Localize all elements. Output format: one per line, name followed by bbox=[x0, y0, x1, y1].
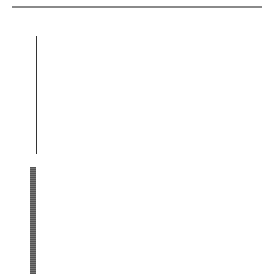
gel-bp-axis bbox=[36, 36, 39, 154]
gel-axis-title bbox=[0, 22, 14, 44]
top-rule-divider bbox=[12, 6, 262, 8]
similarity-scale-labels bbox=[0, 160, 40, 280]
gel-image bbox=[40, 36, 262, 154]
